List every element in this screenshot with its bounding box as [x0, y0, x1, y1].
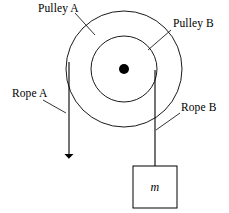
pulley-diagram: Pulley A Pulley B Rope A Rope B m	[0, 0, 229, 213]
rope-b-label: Rope B	[181, 102, 216, 114]
axle-dot-icon	[119, 64, 129, 74]
leader-line-pulley-b	[148, 30, 171, 50]
pulley-b-label: Pulley B	[173, 18, 214, 30]
pulley-a-label: Pulley A	[38, 3, 79, 15]
leader-line-rope-b	[156, 113, 180, 130]
leader-line-rope-a	[43, 100, 66, 113]
leader-line-pulley-a	[75, 13, 95, 35]
mass-label: m	[133, 166, 177, 208]
rope-a-label: Rope A	[12, 88, 47, 100]
